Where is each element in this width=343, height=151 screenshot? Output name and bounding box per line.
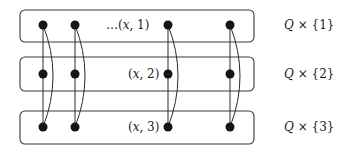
node-r1-c2 (71, 21, 80, 30)
row3-inner-label: (x, 3) (128, 120, 159, 134)
diagram-canvas: …(x, 1) (x, 2) (x, 3) Q × {1} Q × {2} Q … (0, 0, 343, 151)
node-r3-c2 (71, 123, 80, 132)
node-r2-c3 (164, 70, 173, 79)
row1-side-label: Q × {1} (284, 18, 334, 32)
row2-side-label: Q × {2} (284, 67, 334, 81)
node-r3-c4 (226, 123, 235, 132)
node-r1-c3 (164, 21, 173, 30)
node-r2-c1 (39, 70, 48, 79)
node-r1-c1 (39, 21, 48, 30)
node-r3-c3 (164, 123, 173, 132)
node-r2-c4 (226, 70, 235, 79)
row3-side-label: Q × {3} (284, 120, 334, 134)
node-r3-c1 (39, 123, 48, 132)
node-r2-c2 (71, 70, 80, 79)
row2-inner-label: (x, 2) (128, 67, 159, 81)
row1-inner-label: …(x, 1) (106, 18, 149, 32)
node-r1-c4 (226, 21, 235, 30)
